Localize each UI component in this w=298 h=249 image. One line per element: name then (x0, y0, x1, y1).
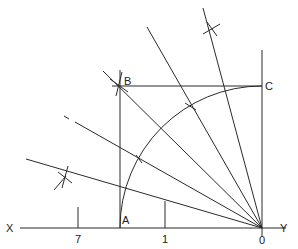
label-x: X (6, 222, 14, 234)
cross-mark-top (203, 22, 220, 36)
label-a: A (122, 214, 130, 226)
ray-5 (203, 8, 262, 228)
label-o: 0 (259, 234, 265, 246)
label-7: 7 (75, 233, 81, 245)
label-b: B (124, 75, 131, 87)
label-c: C (265, 80, 273, 92)
label-1: 1 (162, 233, 168, 245)
cross-mark-arc-upper (185, 103, 196, 110)
ray-2 (75, 122, 262, 228)
diagram-canvas: X Y 0 A B C 7 1 (0, 0, 298, 249)
construction-diagram: X Y 0 A B C 7 1 (0, 0, 298, 249)
label-y: Y (280, 222, 288, 234)
ray-2-dash (64, 116, 69, 119)
ray-4 (147, 27, 262, 228)
